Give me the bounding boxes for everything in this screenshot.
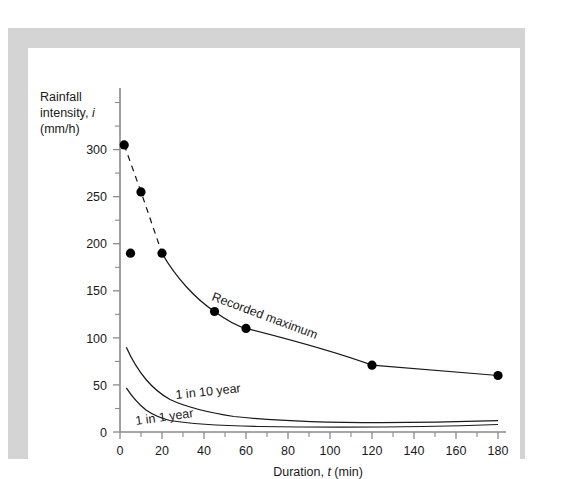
y-axis-label-line1: Rainfall	[40, 90, 82, 104]
one-in-1-year-label: 1 in 1 year	[134, 406, 194, 428]
y-axis-tick-labels: 0 50 100 150 200 250 300	[86, 143, 107, 439]
x-tick-label-80: 80	[281, 444, 295, 458]
x-tick-label-60: 60	[239, 444, 253, 458]
x-axis-tick-labels: 0 20 40 60 80 100 120 140 160 180	[117, 444, 509, 458]
data-point-5-190	[126, 249, 135, 258]
x-tick-label-20: 20	[155, 444, 169, 458]
data-point-60-110	[241, 324, 250, 333]
x-tick-label-120: 120	[362, 444, 383, 458]
data-point-2-305	[120, 140, 129, 149]
figure-frame: Rainfall intensity, i (mm/h)	[8, 28, 525, 459]
rainfall-intensity-chart: Rainfall intensity, i (mm/h)	[28, 48, 520, 479]
y-tick-label-200: 200	[86, 237, 107, 251]
x-tick-label-40: 40	[197, 444, 211, 458]
plot-canvas: Rainfall intensity, i (mm/h)	[28, 48, 520, 479]
recorded-maximum-dashed-segment	[124, 145, 162, 253]
x-tick-label-0: 0	[117, 444, 124, 458]
recorded-maximum-label: Recorded maximum	[210, 290, 320, 342]
one-in-10-year-label: 1 in 10 year	[175, 381, 241, 402]
y-axis-major-ticks	[113, 150, 120, 432]
y-tick-label-0: 0	[100, 426, 107, 440]
data-point-45-128	[210, 307, 219, 316]
y-axis-label-line3: (mm/h)	[40, 122, 80, 136]
y-axis-label-line2: intensity, i	[40, 106, 96, 120]
x-tick-label-140: 140	[404, 444, 425, 458]
x-tick-label-180: 180	[488, 444, 509, 458]
y-tick-label-50: 50	[93, 379, 107, 393]
y-tick-label-150: 150	[86, 284, 107, 298]
recorded-maximum-markers	[120, 140, 503, 380]
x-tick-label-100: 100	[320, 444, 341, 458]
x-axis-title: Duration, t (min)	[273, 465, 363, 479]
y-tick-label-100: 100	[86, 332, 107, 346]
data-point-20-190	[157, 249, 166, 258]
data-point-120-71	[367, 361, 376, 370]
data-point-180-60	[493, 371, 502, 380]
x-tick-label-160: 160	[446, 444, 467, 458]
y-tick-label-300: 300	[86, 143, 107, 157]
data-point-10-255	[136, 187, 145, 196]
y-tick-label-250: 250	[86, 190, 107, 204]
